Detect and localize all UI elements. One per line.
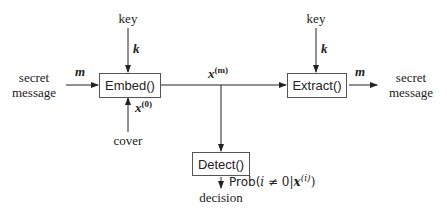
extract-label: Extract() [292, 78, 341, 93]
key-left-label: key [114, 11, 142, 26]
embed-label: Embed() [105, 78, 155, 93]
detect-label: Detect() [198, 157, 244, 172]
embed-box: Embed() [99, 73, 161, 98]
secret-message-out-label: secret message [380, 70, 442, 100]
x-0-edge-label: x(0) [135, 99, 152, 116]
extract-box: Extract() [287, 73, 347, 98]
x-m-edge-label: x(m) [208, 65, 228, 82]
cover-label: cover [108, 133, 148, 148]
connector-layer [0, 0, 447, 212]
decision-label: decision [196, 190, 246, 205]
k-left-edge-label: k [133, 41, 140, 57]
k-right-edge-label: k [321, 41, 328, 57]
prob-edge-label: Prob(i ≠ 0|x(i)) [229, 173, 315, 190]
steganography-diagram: Embed() Extract() Detect() key key secre… [0, 0, 447, 212]
key-right-label: key [302, 11, 330, 26]
secret-message-in-label: secret message [4, 70, 64, 100]
m-in-edge-label: m [75, 64, 85, 80]
m-out-edge-label: m [355, 64, 365, 80]
